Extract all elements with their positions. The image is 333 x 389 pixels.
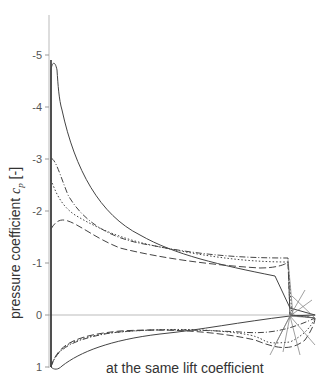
y-tick-label: 1 (36, 361, 42, 373)
series-dashdot-upper (51, 158, 315, 318)
chart-caption: at the same lift coefficient (106, 360, 264, 376)
cp-curves (51, 60, 315, 369)
y-tick-label: 0 (36, 309, 42, 321)
y-tick-label: -2 (32, 205, 42, 217)
series-dotted-upper (51, 180, 315, 318)
y-axis-title: pressure coefficient cp [-] (7, 167, 25, 319)
y-tick-label: -5 (32, 49, 42, 61)
pressure-distribution-chart: -5 -4 -3 -2 -1 0 1 pressure coefficient … (0, 0, 333, 389)
y-axis: -5 -4 -3 -2 -1 0 1 (32, 15, 49, 373)
y-tick-label: -3 (32, 153, 42, 165)
y-tick-label: -1 (32, 257, 42, 269)
series-solid-upper (51, 63, 315, 367)
y-tick-label: -4 (32, 101, 42, 113)
series-dashed-upper (51, 220, 315, 318)
